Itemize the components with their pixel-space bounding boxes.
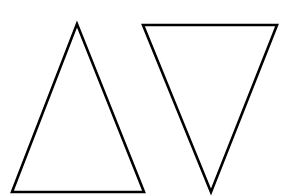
diagram-canvas xyxy=(0,0,290,196)
